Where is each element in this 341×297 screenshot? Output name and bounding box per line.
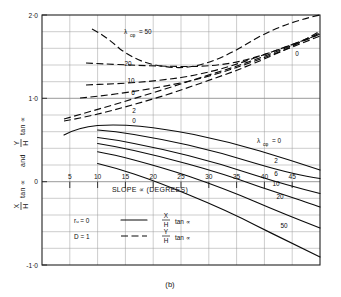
annotation-dashed-2: 2 bbox=[132, 107, 136, 114]
legend-condition-d: D = 1 bbox=[74, 233, 90, 240]
y-axis-tan-1: tan ∝ bbox=[19, 180, 26, 198]
annotation-solid-50: 50 bbox=[280, 222, 288, 229]
y-tick-label-0: 0 bbox=[34, 178, 38, 185]
figure-caption: (b) bbox=[165, 280, 175, 289]
lambda-subscript-dashed: cφ bbox=[130, 33, 135, 38]
annotation-solid-6: 6 bbox=[274, 170, 278, 177]
annotation-solid-10: 10 bbox=[272, 180, 280, 187]
annotation-dashed-20: 20 bbox=[124, 60, 132, 67]
legend-solid-numerator: X bbox=[164, 212, 169, 219]
figure-panel-b: 2·0 1·0 0 -1·0 5 10 15 20 25 30 35 40 45… bbox=[0, 0, 341, 297]
x-tick-label-5: 5 bbox=[68, 173, 72, 180]
legend-dashed-denominator: H bbox=[164, 237, 169, 244]
legend-condition-ru: rᵤ = 0 bbox=[74, 217, 90, 224]
annotation-dashed-10: 10 bbox=[127, 77, 135, 84]
y-tick-label-neg1: -1·0 bbox=[26, 262, 38, 269]
x-tick-label-10: 10 bbox=[94, 173, 102, 180]
lambda-subscript-solid: cφ bbox=[263, 142, 268, 147]
annotation-dashed-0: 0 bbox=[132, 117, 136, 124]
x-tick-label-30: 30 bbox=[205, 173, 213, 180]
legend-solid-tail: tan ∝ bbox=[175, 218, 190, 225]
lambda-value-dashed-50: = 50 bbox=[139, 28, 152, 35]
legend-solid-denominator: H bbox=[164, 221, 169, 228]
annotation-solid-2: 2 bbox=[274, 157, 278, 164]
x-tick-label-20: 20 bbox=[150, 173, 158, 180]
annotation-dashed-6: 6 bbox=[131, 89, 135, 96]
y-axis-tan-2: tan ∝ bbox=[19, 117, 26, 135]
y-tick-label-1: 1·0 bbox=[28, 95, 38, 102]
x-tick-label-15: 15 bbox=[122, 173, 130, 180]
lambda-value-solid-0: = 0 bbox=[272, 137, 282, 144]
annotation-dashed-right-0: 0 bbox=[295, 50, 299, 57]
chart-svg: 2·0 1·0 0 -1·0 5 10 15 20 25 30 35 40 45… bbox=[0, 0, 341, 297]
legend-dashed-numerator: Y bbox=[164, 228, 169, 235]
y-axis-and: and bbox=[19, 154, 26, 167]
y-tick-label-2: 2·0 bbox=[28, 12, 38, 19]
y-axis-den-h1: H bbox=[22, 203, 29, 208]
y-axis-den-h2: H bbox=[22, 140, 29, 145]
y-axis-num-x: X bbox=[13, 203, 20, 208]
y-axis-num-y: Y bbox=[13, 140, 20, 145]
legend-dashed-tail: tan ∝ bbox=[175, 234, 190, 241]
annotation-solid-20: 20 bbox=[276, 193, 284, 200]
